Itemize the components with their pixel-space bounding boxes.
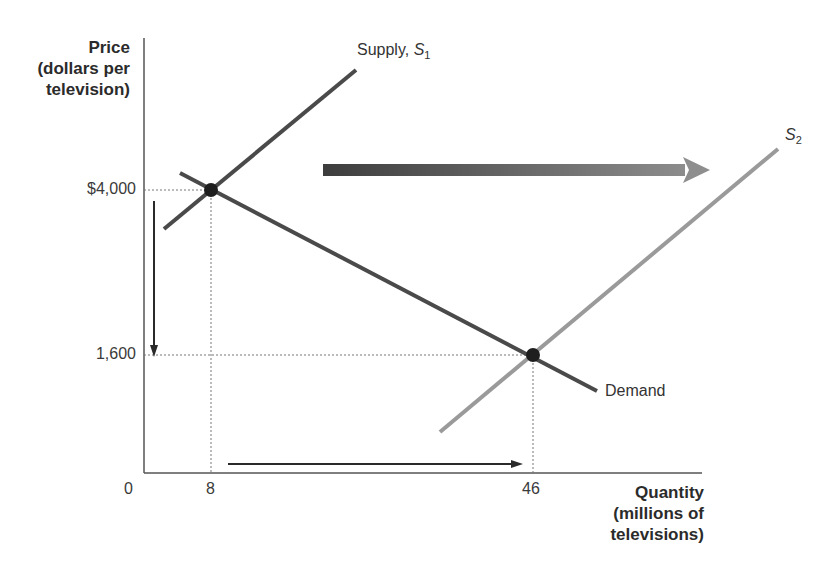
supply-s2-label-symbol: S	[785, 126, 796, 143]
supply-s1-label-text: Supply,	[357, 41, 414, 58]
quantity-increase-arrow	[228, 460, 523, 468]
price-decrease-arrow	[150, 201, 158, 357]
x-axis-title-line3: televisions)	[560, 524, 704, 545]
supply-s1-label-symbol: S	[414, 41, 425, 58]
demand-label: Demand	[605, 382, 665, 400]
y-axis-title-line3: television)	[0, 79, 130, 100]
x-axis-title-line1: Quantity	[560, 482, 704, 503]
supply-curve-s1	[164, 70, 356, 229]
equilibrium-point-1	[204, 183, 218, 197]
supply-shift-arrow	[323, 157, 710, 183]
x-tick-46: 46	[522, 480, 540, 498]
x-tick-0: 0	[124, 480, 133, 498]
y-axis-title-line1: Price	[0, 37, 130, 58]
equilibrium-point-2	[526, 348, 540, 362]
y-tick-1600: 1,600	[74, 345, 136, 363]
y-axis-title: Price (dollars per television)	[0, 37, 130, 100]
y-axis-title-line2: (dollars per	[0, 58, 130, 79]
supply-s2-label: S2	[785, 126, 802, 146]
y-tick-4000: $4,000	[74, 180, 136, 198]
x-axis-title: Quantity (millions of televisions)	[560, 482, 704, 545]
supply-s2-label-sub: 2	[796, 134, 802, 146]
x-axis-title-line2: (millions of	[560, 503, 704, 524]
supply-s1-label: Supply, S1	[357, 41, 430, 61]
supply-s1-label-sub: 1	[424, 49, 430, 61]
x-tick-8: 8	[206, 480, 215, 498]
